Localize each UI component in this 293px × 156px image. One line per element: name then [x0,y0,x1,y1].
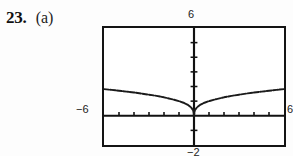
x-min-range-label: −6 [76,104,89,115]
graph-plot [104,28,284,145]
axes-group [104,28,284,145]
y-max-range-label: 6 [188,9,194,20]
figure-root: 23. (a) 6 −6 6 −2 [0,0,293,156]
problem-part-label: (a) [36,9,54,27]
y-min-range-label: −2 [187,147,200,156]
problem-number: 23. [6,8,27,28]
problem-label: 23. (a) [6,8,53,28]
calculator-viewport [102,26,286,147]
x-max-range-label: 6 [287,104,293,115]
